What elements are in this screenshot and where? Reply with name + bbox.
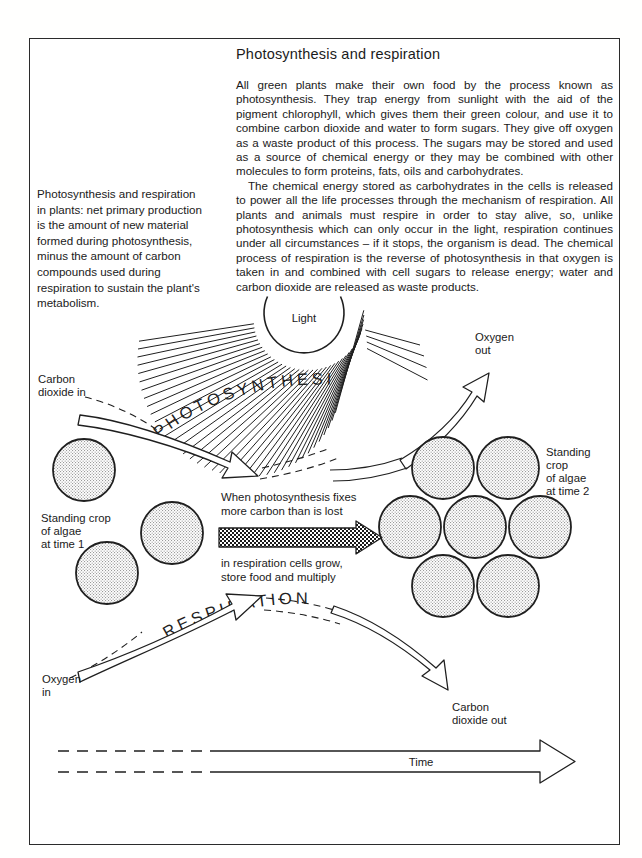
- body-paragraph-1: All green plants make their own food by …: [236, 78, 613, 179]
- figure-page: Photosynthesis and respiration All green…: [0, 0, 642, 858]
- page-title: Photosynthesis and respiration: [236, 46, 440, 62]
- body-paragraph-2: The chemical energy stored as carbohydra…: [236, 179, 613, 294]
- body-text: All green plants make their own food by …: [236, 78, 613, 294]
- growth-note-below-line1: in respiration cells grow,: [221, 557, 343, 569]
- growth-note-below: in respiration cells grow, store food an…: [221, 556, 381, 584]
- growth-note-above: When photosynthesis fixes more carbon th…: [221, 490, 371, 518]
- growth-note-below-line2: store food and multiply: [221, 571, 336, 583]
- growth-note-above-line2: more carbon than is lost: [221, 505, 343, 517]
- growth-note-above-line1: When photosynthesis fixes: [221, 491, 357, 503]
- figure-caption: Photosynthesis and respiration in plants…: [37, 186, 207, 311]
